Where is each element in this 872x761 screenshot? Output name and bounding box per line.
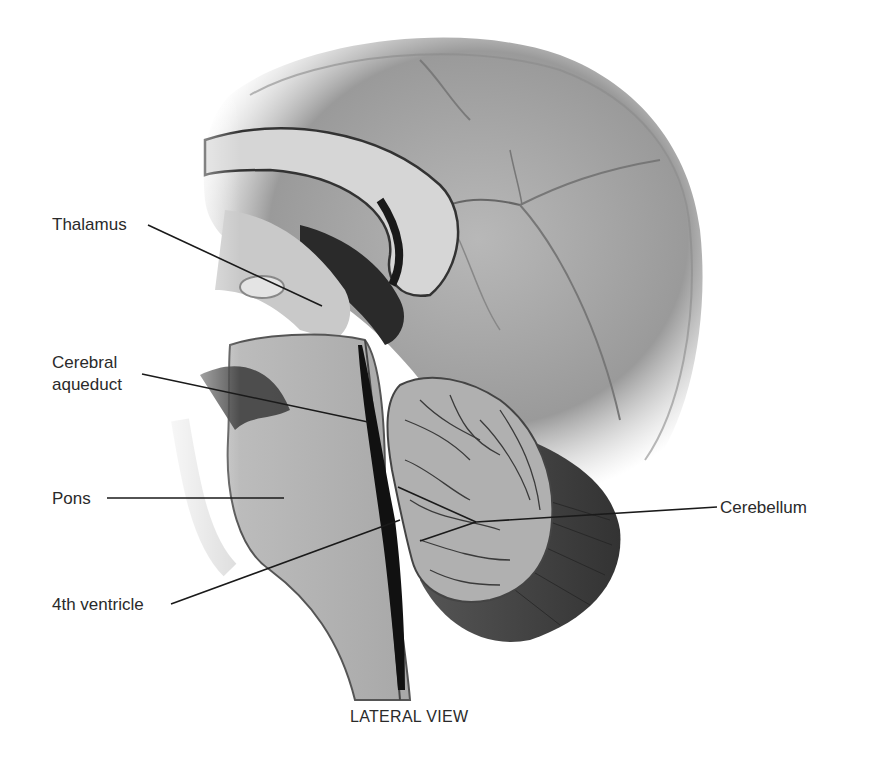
label-cerebellum: Cerebellum — [720, 497, 807, 518]
label-cerebral-aqueduct-line1: Cerebral — [52, 352, 117, 373]
interthalamic-adhesion — [240, 276, 284, 298]
label-thalamus: Thalamus — [52, 214, 127, 235]
label-pons: Pons — [52, 488, 91, 509]
brain-lateral-view-diagram: Thalamus Cerebral aqueduct Pons 4th vent… — [0, 0, 872, 761]
label-cerebral-aqueduct-line2: aqueduct — [52, 374, 122, 395]
brain-illustration — [0, 0, 872, 761]
figure-caption: LATERAL VIEW — [350, 708, 468, 726]
label-4th-ventricle: 4th ventricle — [52, 594, 144, 615]
